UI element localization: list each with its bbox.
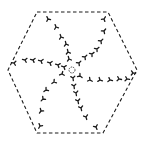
arm-left bbox=[11, 58, 66, 69]
y-mark-icon bbox=[41, 96, 45, 100]
y-mark-icon bbox=[64, 41, 68, 46]
y-mark-icon bbox=[11, 61, 15, 65]
y-mark-icon bbox=[52, 79, 57, 83]
y-mark-icon bbox=[93, 125, 97, 130]
y-mark-icon bbox=[44, 87, 49, 91]
y-mark-icon bbox=[60, 35, 64, 40]
y-mark-icon bbox=[76, 99, 80, 104]
y-mark-icon bbox=[94, 47, 99, 51]
y-mark-icon bbox=[84, 115, 88, 120]
y-mark-icon bbox=[74, 91, 78, 96]
arm-upper-right bbox=[76, 17, 105, 66]
y-mark-icon bbox=[82, 55, 86, 59]
y-mark-icon bbox=[101, 17, 105, 22]
y-mark-icon bbox=[56, 64, 61, 68]
y-mark-icon bbox=[117, 77, 122, 81]
y-mark-icon bbox=[39, 124, 43, 129]
arm-upper-left bbox=[47, 17, 72, 61]
y-mark-icon bbox=[39, 108, 43, 113]
y-mark-icon bbox=[89, 52, 94, 56]
y-mark-icon bbox=[77, 73, 82, 77]
y-mark-icon bbox=[108, 78, 113, 82]
y-mark-icon bbox=[76, 61, 80, 65]
y-mark-icon bbox=[30, 58, 35, 62]
arm-lower-right bbox=[71, 76, 97, 129]
y-mark-icon bbox=[48, 62, 53, 66]
y-mark-icon bbox=[71, 76, 75, 80]
y-mark-icon bbox=[47, 17, 51, 22]
y-mark-icon bbox=[62, 66, 67, 70]
y-mark-icon bbox=[60, 72, 65, 76]
y-mark-icon bbox=[72, 84, 76, 88]
y-mark-icon bbox=[55, 25, 59, 30]
y-mark-icon bbox=[98, 78, 103, 82]
y-mark-icon bbox=[39, 59, 44, 63]
circle-icon bbox=[69, 67, 75, 73]
y-mark-icon bbox=[88, 77, 93, 81]
diagram-canvas bbox=[0, 0, 145, 149]
hexagon-outline bbox=[8, 12, 137, 133]
y-mark-icon bbox=[101, 29, 105, 34]
arm-right bbox=[77, 71, 135, 82]
y-mark-icon bbox=[125, 77, 129, 81]
hexagon-diagram bbox=[0, 0, 145, 149]
y-mark-icon bbox=[22, 58, 27, 62]
arm-lower-left bbox=[39, 72, 65, 129]
y-mark-icon bbox=[79, 106, 83, 111]
y-mark-icon bbox=[67, 56, 71, 61]
y-mark-icon bbox=[98, 39, 102, 43]
y-mark-icon bbox=[66, 49, 70, 54]
